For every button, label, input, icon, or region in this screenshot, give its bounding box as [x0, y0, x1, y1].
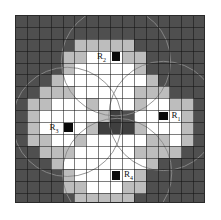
- region-label-r3: R3: [50, 123, 59, 136]
- raster-cell: [74, 74, 86, 86]
- raster-cell: [98, 86, 110, 98]
- raster-cell: [110, 146, 122, 158]
- raster-cell: [110, 122, 122, 134]
- raster-cell: [146, 158, 158, 170]
- raster-cell: [63, 86, 75, 98]
- raster-cell: [86, 86, 98, 98]
- raster-cell: [181, 98, 193, 110]
- raster-cell: [134, 63, 146, 75]
- raster-cell: [74, 122, 86, 134]
- grid-plate: R1 R2 R3 R4: [15, 15, 205, 203]
- raster-cell: [63, 169, 75, 181]
- raster-cell: [146, 86, 158, 98]
- raster-cell: [86, 98, 98, 110]
- raster-cell: [86, 122, 98, 134]
- raster-voronoi-figure: R1 R2 R3 R4: [0, 0, 221, 220]
- raster-cell: [134, 146, 146, 158]
- raster-cell: [98, 122, 110, 134]
- seed-point-r3: [64, 123, 73, 132]
- raster-cell: [169, 146, 181, 158]
- raster-cell: [98, 158, 110, 170]
- raster-cell: [86, 146, 98, 158]
- raster-cell: [74, 110, 86, 122]
- raster-cell: [134, 181, 146, 193]
- raster-cell: [63, 134, 75, 146]
- raster-cell: [134, 74, 146, 86]
- raster-cell: [39, 110, 51, 122]
- raster-cell: [98, 74, 110, 86]
- raster-cell: [63, 158, 75, 170]
- raster-cell: [146, 74, 158, 86]
- raster-cell: [74, 193, 86, 203]
- raster-cell: [122, 74, 134, 86]
- raster-cell: [27, 134, 39, 146]
- raster-cell: [86, 158, 98, 170]
- raster-cell: [86, 134, 98, 146]
- raster-cell: [63, 146, 75, 158]
- raster-cell: [74, 169, 86, 181]
- raster-cell-layer: [15, 15, 205, 203]
- raster-cell: [181, 122, 193, 134]
- raster-cell: [27, 98, 39, 110]
- raster-cell: [74, 51, 86, 63]
- raster-cell: [122, 39, 134, 51]
- raster-cell: [110, 193, 122, 203]
- raster-cell: [134, 169, 146, 181]
- raster-cell: [158, 134, 170, 146]
- raster-cell: [158, 146, 170, 158]
- region-label-r4: R4: [124, 170, 133, 183]
- raster-cell: [122, 63, 134, 75]
- raster-cell: [122, 134, 134, 146]
- raster-cell: [63, 51, 75, 63]
- raster-cell: [74, 134, 86, 146]
- raster-cell: [110, 74, 122, 86]
- raster-cell: [86, 193, 98, 203]
- raster-cell: [27, 122, 39, 134]
- raster-cell: [74, 39, 86, 51]
- raster-cell: [181, 134, 193, 146]
- raster-cell: [110, 134, 122, 146]
- raster-cell: [86, 74, 98, 86]
- raster-cell: [158, 86, 170, 98]
- raster-cell: [86, 39, 98, 51]
- raster-cell: [51, 86, 63, 98]
- raster-cell: [86, 169, 98, 181]
- seed-point-r2: [112, 52, 121, 61]
- raster-cell: [39, 146, 51, 158]
- raster-cell: [51, 74, 63, 86]
- raster-cell: [134, 110, 146, 122]
- raster-cell: [74, 63, 86, 75]
- raster-cell: [98, 193, 110, 203]
- seed-point-r1: [159, 112, 168, 121]
- region-label-r1: R1: [171, 111, 180, 124]
- raster-cell: [134, 158, 146, 170]
- raster-cell: [134, 134, 146, 146]
- raster-cell: [74, 98, 86, 110]
- raster-cell: [158, 98, 170, 110]
- raster-cell: [110, 63, 122, 75]
- raster-cell: [98, 110, 110, 122]
- raster-cell: [122, 158, 134, 170]
- raster-cell: [146, 146, 158, 158]
- raster-cell: [134, 122, 146, 134]
- raster-cell: [98, 134, 110, 146]
- raster-cell: [110, 181, 122, 193]
- raster-cell: [74, 158, 86, 170]
- raster-cell: [51, 98, 63, 110]
- raster-cell: [110, 98, 122, 110]
- raster-cell: [98, 181, 110, 193]
- region-label-r2: R2: [97, 52, 106, 65]
- raster-cell: [110, 86, 122, 98]
- raster-cell: [63, 63, 75, 75]
- raster-cell: [181, 110, 193, 122]
- raster-cell: [110, 158, 122, 170]
- raster-cell: [86, 110, 98, 122]
- raster-cell: [63, 98, 75, 110]
- raster-cell: [122, 146, 134, 158]
- raster-cell: [63, 74, 75, 86]
- raster-cell: [134, 98, 146, 110]
- raster-cell: [74, 146, 86, 158]
- raster-cell: [110, 39, 122, 51]
- raster-cell: [98, 146, 110, 158]
- raster-cell: [122, 98, 134, 110]
